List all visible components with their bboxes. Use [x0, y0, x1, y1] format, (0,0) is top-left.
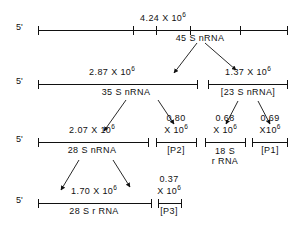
arrow-45s-to-35s — [174, 43, 197, 73]
row3-seg3-mass-line1: 0.68 — [213, 113, 237, 123]
row4-seg1-name: 28 S r RNA — [69, 207, 119, 216]
row4-seg1-mass: 1.70 X 106 — [71, 185, 117, 196]
row1-bar — [38, 26, 287, 35]
row2-seg2-mass: 1.37 X 106 — [225, 66, 271, 77]
row3-seg3-name: 18 S r RNA — [212, 146, 239, 166]
row3-seg1-mass: 2.07 X 106 — [69, 124, 115, 135]
row4-seg2-mass: 0.37 X 106 — [157, 174, 181, 196]
row3-seg4-mass: 0.69 X106 — [260, 113, 281, 135]
row3-seg2-mass-line2: X 106 — [164, 123, 188, 135]
row2-five-prime-label: 5' — [16, 77, 23, 86]
row3-seg1-name: 28 S nRNA — [68, 146, 117, 155]
arrow-28s-to-p3 — [113, 160, 130, 187]
row1-seg1-mass: 4.24 X 106 — [140, 12, 186, 23]
row4-seg2-mass-line1: 0.37 — [157, 174, 181, 184]
row1-five-prime-label: 5' — [16, 23, 23, 32]
row4-seg2-name: [P3] — [160, 207, 178, 216]
row3-seg4-mass-line1: 0.69 — [260, 113, 281, 123]
row3-seg2-name: [P2] — [167, 146, 185, 155]
row3-seg3-name-line2: r RNA — [212, 156, 239, 166]
row2-seg1-name: 35 S nRNA — [102, 88, 151, 97]
row3-seg4-mass-line2: X106 — [260, 123, 281, 135]
row3-seg3-mass-line2: X 106 — [213, 123, 237, 135]
row4-seg2-mass-line2: X 106 — [157, 184, 181, 196]
row3-five-prime-label: 5' — [16, 135, 23, 144]
row3-seg2-mass-line1: 0.80 — [164, 113, 188, 123]
row3-seg3-name-line1: 18 S — [212, 146, 239, 156]
row2-seg1-mass: 2.87 X 106 — [89, 66, 135, 77]
row2-seg2-name: [23 S nRNA] — [221, 88, 275, 97]
row3-seg2-mass: 0.80 X 106 — [164, 113, 188, 135]
row4-five-prime-label: 5' — [16, 196, 23, 205]
row3-seg3-mass: 0.68 X 106 — [213, 113, 237, 135]
row3-seg4-name: [P1] — [261, 146, 279, 155]
row1-seg1-name: 45 S nRNA — [176, 34, 225, 43]
